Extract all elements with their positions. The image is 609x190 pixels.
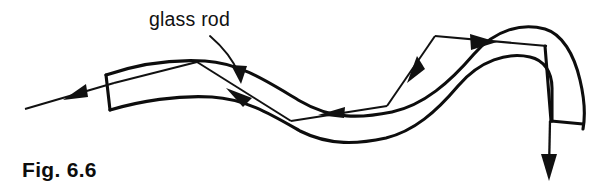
annotation-leader-arrow-icon <box>231 65 247 84</box>
glass-rod-annotation: glass rod <box>149 8 247 84</box>
rod-bottom-edge <box>110 56 552 143</box>
light-ray-path <box>25 34 557 181</box>
exit-ray-arrow-icon <box>541 154 557 181</box>
rod-left-end-face <box>106 75 110 110</box>
figure-container: glass rod Fig. 6.6 <box>0 0 609 190</box>
glass-rod-label: glass rod <box>149 8 230 30</box>
figure-caption: Fig. 6.6 <box>22 158 97 181</box>
rod-right-end-cap <box>551 121 583 124</box>
rod-right-end-face <box>545 46 551 121</box>
internal-ray-segment-1 <box>114 62 197 83</box>
internal-ray-arrow-icon-3 <box>407 56 425 83</box>
incident-ray-arrow-icon <box>63 84 88 100</box>
optics-diagram: glass rod Fig. 6.6 <box>0 0 609 190</box>
glass-rod-shape <box>106 27 584 143</box>
